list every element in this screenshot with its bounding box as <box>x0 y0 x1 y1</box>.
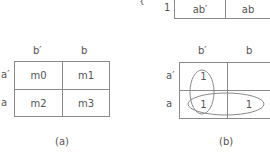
vertical-group-loop <box>190 70 214 114</box>
map-b-grouping-overlay <box>0 0 270 157</box>
horizontal-group-loop <box>188 93 264 115</box>
map-b-caption: (b) <box>219 137 233 147</box>
